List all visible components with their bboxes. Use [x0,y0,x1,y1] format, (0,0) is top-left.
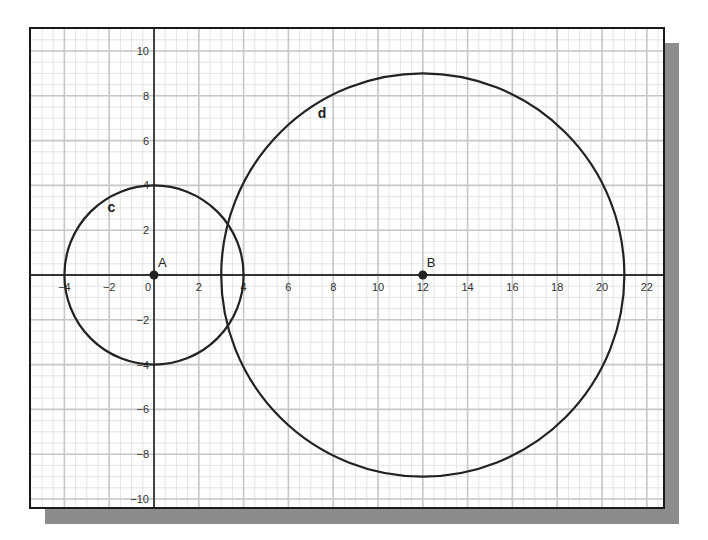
x-tick-label: 18 [551,281,563,293]
x-tick-label: 6 [285,281,291,293]
geometry-plot: −4−20246810121416182022−10−8−6−4−2246810… [0,0,708,540]
x-tick-label: 14 [461,281,473,293]
x-tick-label: 12 [417,281,429,293]
x-tick-label: 10 [372,281,384,293]
y-tick-label: 8 [143,90,149,102]
y-tick-label: −2 [136,314,149,326]
point-A[interactable] [150,271,159,280]
x-tick-label: −2 [103,281,116,293]
x-tick-label: 0 [145,281,151,293]
y-tick-label: 2 [143,224,149,236]
y-tick-label: 10 [137,45,149,57]
x-tick-label: 22 [641,281,653,293]
point-label-B: B [427,255,436,270]
circle-label-d: d [318,105,327,121]
y-tick-label: −8 [136,448,149,460]
circle-label-c: c [108,199,116,215]
y-tick-label: −10 [130,493,149,505]
x-tick-label: 16 [506,281,518,293]
y-tick-label: −6 [136,403,149,415]
point-B[interactable] [418,271,427,280]
x-tick-label: 8 [330,281,336,293]
y-tick-label: 6 [143,135,149,147]
x-tick-label: 20 [596,281,608,293]
x-tick-label: 2 [196,281,202,293]
plot-canvas: −4−20246810121416182022−10−8−6−4−2246810… [0,0,708,540]
point-label-A: A [158,255,167,270]
